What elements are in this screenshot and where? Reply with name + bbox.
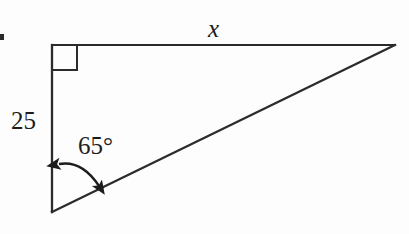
right-angle-square-path — [52, 45, 77, 70]
unknown-side-label: x — [208, 16, 219, 41]
right-angle-marker-icon — [52, 45, 77, 70]
geometry-figure: x 25 65° — [0, 0, 409, 234]
angle-measure-label: 65° — [78, 133, 113, 158]
triangle-outline — [52, 45, 395, 212]
angle-double-arrow-path — [59, 163, 99, 186]
known-side-label: 25 — [11, 108, 36, 133]
triangle-diagram-canvas — [0, 0, 409, 234]
triangle-hypotenuse — [52, 45, 395, 212]
angle-arc-arrow-icon — [59, 163, 99, 186]
scan-artifact-mark — [0, 34, 4, 40]
